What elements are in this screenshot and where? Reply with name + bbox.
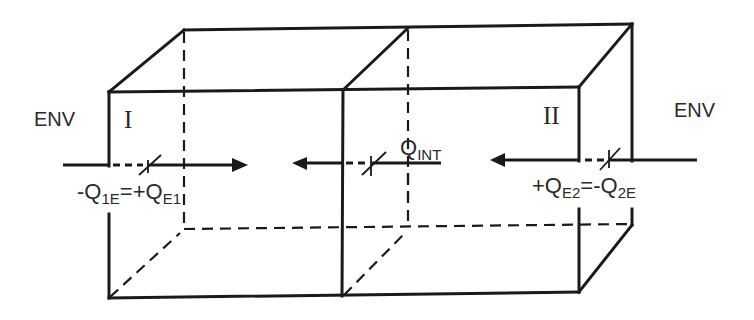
top-left-depth-edge: [109, 30, 184, 92]
flow-arrow-env-to-zone-2: [490, 148, 697, 170]
zone-1-label: I: [124, 106, 132, 133]
bottom-middle-depth-edge: [344, 232, 406, 295]
front-bottom-edge: [109, 292, 579, 298]
arrowhead-left-icon: [490, 153, 505, 167]
zone-2-label: II: [543, 102, 560, 129]
flow-right-equation: +QE2=-Q2E: [532, 173, 636, 201]
env-right-label: ENV: [674, 99, 716, 121]
arrowhead-left-icon: [292, 157, 307, 170]
flow-left-equation: -Q1E=+QE1: [77, 179, 181, 207]
env-left-label: ENV: [34, 108, 76, 130]
top-middle-depth-edge: [343, 28, 408, 90]
bottom-left-depth-edge: [110, 233, 180, 297]
flow-arrow-env-to-zone-1: [63, 155, 248, 175]
bottom-right-depth-edge: [579, 225, 632, 292]
arrowhead-right-icon: [232, 158, 248, 172]
q-int-label: QINT: [400, 135, 441, 163]
top-right-depth-edge: [579, 24, 632, 87]
back-bottom-edge: [184, 224, 632, 229]
partition-front-edge: [342, 90, 343, 296]
two-zone-heat-flow-diagram: ENV ENV I II QINT -Q1E=+QE1 +QE2=-Q2E: [0, 0, 754, 320]
